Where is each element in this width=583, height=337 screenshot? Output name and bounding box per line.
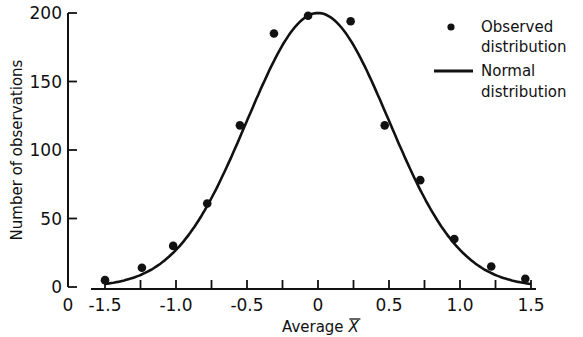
observed-point bbox=[169, 242, 178, 251]
x-tick-label: 0 bbox=[313, 295, 324, 315]
observed-point bbox=[380, 121, 389, 130]
x-axis: -1.5-1.0-0.500.51.01.50 bbox=[63, 280, 545, 315]
y-tick-label: 200 bbox=[30, 3, 62, 23]
observed-point bbox=[487, 262, 496, 271]
observed-point bbox=[521, 274, 530, 283]
y-tick-label: 50 bbox=[40, 209, 62, 229]
observed-point bbox=[138, 264, 147, 273]
legend-label-observed: Observed bbox=[481, 18, 553, 36]
observed-point bbox=[270, 29, 279, 38]
legend-label-normal: Normal bbox=[481, 62, 535, 80]
x-tick-label: -1.0 bbox=[159, 295, 192, 315]
normal-distribution-curve bbox=[105, 13, 531, 284]
y-tick-label: 150 bbox=[30, 72, 62, 92]
legend-label-normal-2: distribution bbox=[481, 83, 566, 101]
x-tick-label: 1.5 bbox=[517, 295, 544, 315]
x-tick-label: 0.5 bbox=[375, 295, 402, 315]
y-tick-label: 0 bbox=[51, 277, 62, 297]
observed-point bbox=[101, 276, 110, 285]
observed-point bbox=[346, 17, 355, 26]
x-tick-label: -0.5 bbox=[230, 295, 263, 315]
y-axis: 050100150200 bbox=[30, 3, 77, 297]
y-axis-title: Number of observations bbox=[8, 59, 26, 240]
normal-distribution-chart: 050100150200 -1.5-1.0-0.500.51.01.50 Num… bbox=[0, 0, 583, 337]
x-origin-label: 0 bbox=[63, 295, 74, 315]
x-axis-title: Average X bbox=[282, 318, 360, 336]
observed-points bbox=[101, 11, 530, 284]
x-tick-label: -1.5 bbox=[88, 295, 121, 315]
observed-point bbox=[416, 176, 425, 185]
legend: ObserveddistributionNormaldistribution bbox=[434, 18, 566, 101]
observed-point bbox=[450, 235, 459, 244]
observed-point bbox=[203, 199, 212, 208]
y-tick-label: 100 bbox=[30, 140, 62, 160]
legend-dot-icon bbox=[447, 23, 454, 30]
svg-text:Average X: Average X bbox=[282, 318, 359, 336]
x-axis-title-text: Average bbox=[282, 318, 348, 336]
observed-point bbox=[304, 11, 313, 20]
observed-point bbox=[236, 121, 245, 130]
legend-label-observed-2: distribution bbox=[481, 38, 566, 56]
x-bar-symbol: X bbox=[347, 318, 359, 336]
x-tick-label: 1.0 bbox=[446, 295, 473, 315]
